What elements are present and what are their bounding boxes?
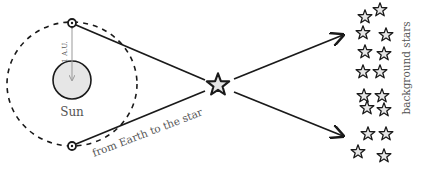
background-star-icon <box>360 101 374 114</box>
background-star-icon <box>357 89 371 102</box>
projection-top <box>234 35 343 79</box>
background-star-icon <box>379 127 393 140</box>
distance-label: 1 A.U. <box>61 41 69 62</box>
background-star-icon <box>351 145 365 158</box>
background-star-icon <box>375 89 389 102</box>
sun-label: Sun <box>60 105 84 119</box>
near-star-icon <box>207 73 229 94</box>
background-star-icon <box>356 65 370 78</box>
background-star-icon <box>356 26 370 39</box>
background-star-icon <box>377 149 391 162</box>
background-star-icon <box>377 103 391 116</box>
background-star-icon <box>361 127 375 140</box>
background-star-icon <box>377 47 391 60</box>
background-star-icon <box>358 10 372 23</box>
projection-bottom <box>234 92 343 136</box>
background-label: background stars <box>400 21 412 114</box>
background-star-icon <box>373 3 387 16</box>
background-stars <box>351 3 393 162</box>
background-star-icon <box>358 45 372 58</box>
sightline-label: from Earth to the star <box>90 105 205 159</box>
diagram-svg: Sun 1 A.U. from Earth to the star backgr… <box>0 0 422 171</box>
earth-bottom <box>68 142 76 150</box>
earth-top <box>68 19 76 27</box>
parallax-diagram: Sun 1 A.U. from Earth to the star backgr… <box>0 0 422 171</box>
sightline-top <box>76 25 205 80</box>
background-star-icon <box>373 65 387 78</box>
background-star-icon <box>379 28 393 41</box>
